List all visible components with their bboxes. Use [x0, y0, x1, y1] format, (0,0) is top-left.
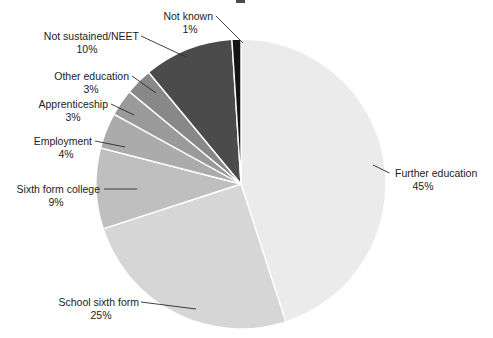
label-school-sixth-form: School sixth form 25% — [58, 296, 139, 321]
label-employment: Employment 4% — [34, 135, 92, 160]
pie-slices — [96, 39, 386, 329]
label-other-education: Other education 3% — [54, 70, 129, 95]
label-value-not-known: 1% — [182, 23, 197, 35]
label-value-further-education: 45% — [412, 180, 433, 192]
label-text-not-sustained-neet: Not sustained/NEET — [44, 30, 140, 42]
pie-chart-svg: Further education 45% School sixth form … — [0, 0, 493, 338]
label-text-school-sixth-form: School sixth form — [58, 296, 139, 308]
label-value-not-sustained-neet: 10% — [76, 43, 97, 55]
label-text-further-education: Further education — [395, 167, 477, 179]
label-further-education: Further education 45% — [395, 167, 477, 192]
label-text-not-known: Not known — [163, 10, 213, 22]
label-value-employment: 4% — [58, 148, 73, 160]
label-apprenticeship: Apprenticeship 3% — [39, 98, 109, 123]
label-text-apprenticeship: Apprenticeship — [39, 98, 109, 110]
pie-chart-figure: Further education 45% School sixth form … — [0, 0, 493, 338]
label-value-school-sixth-form: 25% — [90, 309, 111, 321]
label-value-apprenticeship: 3% — [65, 111, 80, 123]
label-value-other-education: 3% — [83, 83, 98, 95]
label-text-sixth-form-college: Sixth form college — [17, 183, 101, 195]
label-text-other-education: Other education — [54, 70, 129, 82]
cropped-title-mark — [236, 0, 245, 3]
leader-line-not-sustained-neet — [141, 36, 186, 57]
label-not-sustained-neet: Not sustained/NEET 10% — [44, 30, 140, 55]
label-value-sixth-form-college: 9% — [48, 196, 63, 208]
label-text-employment: Employment — [34, 135, 92, 147]
label-sixth-form-college: Sixth form college 9% — [17, 183, 101, 208]
label-not-known: Not known 1% — [163, 10, 213, 35]
